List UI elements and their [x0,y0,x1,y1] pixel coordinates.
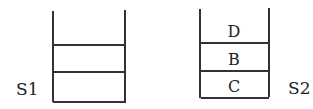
stack-s2-label: S2 [288,80,310,97]
stack-s1-bottom [53,101,126,103]
stack-s1-divider [52,71,126,73]
stack-s1-divider [52,44,126,46]
stack-s2-divider [200,42,269,44]
stack-s2-item: B [200,52,268,68]
stack-s1-left-wall [52,11,54,102]
stack-s2-right-wall [268,8,270,97]
stack-s1-right-wall [124,10,126,101]
stack-s2-divider [200,70,269,72]
stack-s1-label: S1 [16,81,38,98]
stack-s2-bottom [201,97,269,99]
stack-s2-item: C [200,79,268,95]
stack-s2-item: D [200,24,268,40]
